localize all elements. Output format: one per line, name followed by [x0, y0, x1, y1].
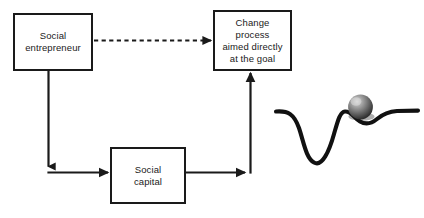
- node-change-process[interactable]: Change process aimed directly at the goa…: [213, 10, 292, 71]
- connector-social-capital-to-change-process: [186, 73, 251, 174]
- ball-icon: [348, 95, 373, 120]
- landscape-curve-icon: [276, 111, 418, 164]
- node-change-process-label: Change process aimed directly at the goa…: [220, 17, 284, 65]
- energy-landscape-illustration: [276, 95, 418, 164]
- connector-entrepreneur-to-social-capital: [47, 71, 108, 173]
- node-social-capital[interactable]: Social capital: [110, 147, 186, 204]
- ball-highlight-icon: [351, 97, 362, 105]
- node-social-entrepreneur-label: Social entrepreneur: [23, 30, 83, 54]
- node-social-capital-label: Social capital: [132, 164, 164, 188]
- node-social-entrepreneur[interactable]: Social entrepreneur: [13, 13, 93, 71]
- diagram-canvas: Social entrepreneur Change process aimed…: [0, 0, 424, 218]
